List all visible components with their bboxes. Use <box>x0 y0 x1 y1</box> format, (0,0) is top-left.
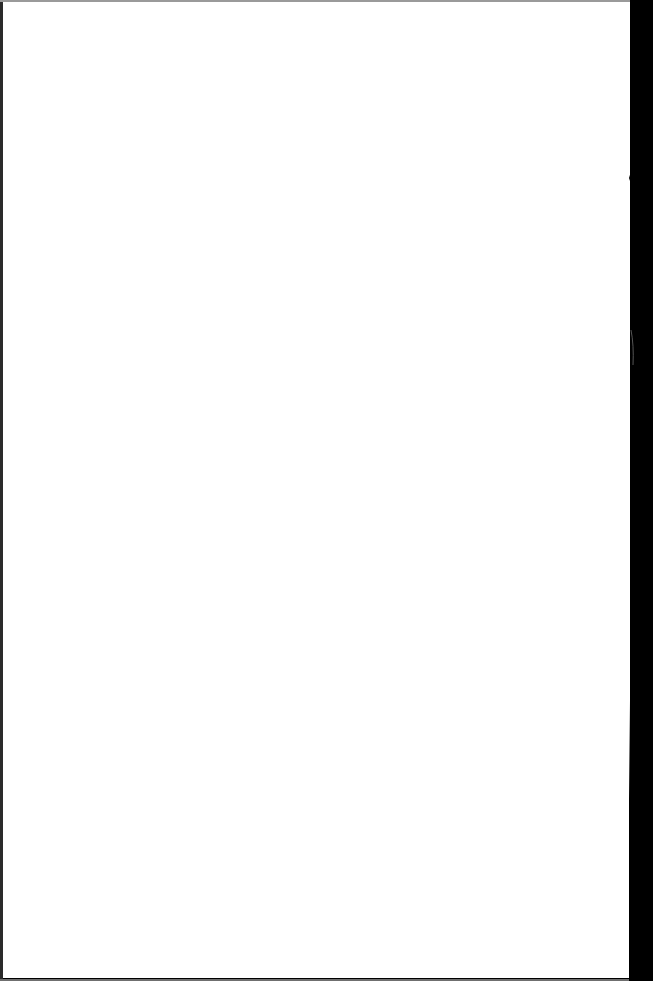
scan-border-left <box>0 0 3 981</box>
torn-edge-shape <box>620 0 653 981</box>
scan-border-top <box>0 0 653 2</box>
blank-page <box>2 2 630 978</box>
